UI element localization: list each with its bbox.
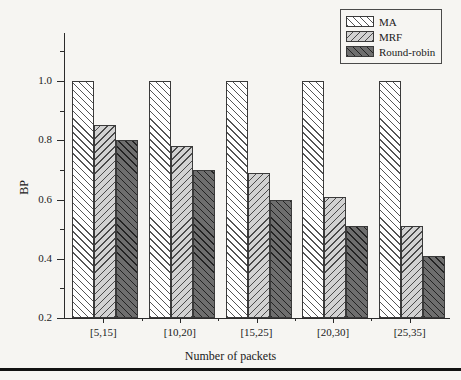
bar-mrf-0 (94, 125, 116, 318)
x-tick-major (410, 318, 411, 323)
bar-rr-3 (346, 226, 368, 318)
x-axis-title: Number of packets (0, 349, 461, 364)
y-tick-major (57, 140, 65, 141)
x-tick-minor (142, 318, 143, 321)
y-tick-major (57, 81, 65, 82)
legend-swatch-ma-icon (346, 16, 374, 27)
bar-mrf-4 (401, 226, 423, 318)
bar-rr-4 (423, 256, 445, 318)
x-tick-minor (371, 318, 372, 321)
y-tick-major (57, 200, 65, 201)
legend-label-round-robin: Round-robin (379, 46, 435, 58)
legend-swatch-round-robin-icon (346, 46, 374, 57)
bar-ma-1 (149, 81, 171, 318)
legend-swatch-mrf-icon (346, 31, 374, 42)
y-axis-title: BP (17, 158, 32, 218)
bar-ma-0 (72, 81, 94, 318)
legend-item-mrf: MRF (346, 29, 435, 44)
bar-ma-4 (379, 81, 401, 318)
plot-area (65, 81, 448, 318)
x-tick-label: [25,35] (365, 326, 455, 339)
legend-label-mrf: MRF (379, 31, 402, 43)
x-tick-major (333, 318, 334, 323)
x-tick-major (103, 318, 104, 323)
x-tick-major (257, 318, 258, 323)
chart-figure: 1.00.80.60.40.2 [5,15][10,20][15,25][20,… (0, 0, 461, 380)
bar-rr-0 (116, 140, 138, 318)
legend-item-round-robin: Round-robin (346, 44, 435, 59)
y-tick-label: 0.4 (12, 253, 52, 264)
y-tick-label: 1.0 (12, 75, 52, 86)
x-tick-major (180, 318, 181, 323)
y-tick-major (57, 259, 65, 260)
bar-mrf-1 (171, 146, 193, 318)
chart-legend: MA MRF Round-robin (340, 9, 442, 64)
bar-ma-3 (302, 81, 324, 318)
bar-mrf-3 (324, 197, 346, 318)
y-tick-label: 0.8 (12, 134, 52, 145)
bar-mrf-2 (248, 173, 270, 318)
legend-label-ma: MA (379, 16, 397, 28)
legend-item-ma: MA (346, 14, 435, 29)
x-tick-minor (218, 318, 219, 321)
bar-rr-1 (193, 170, 215, 318)
bar-rr-2 (270, 200, 292, 319)
y-tick-label: 0.2 (12, 312, 52, 323)
y-tick-minor (60, 51, 65, 52)
y-tick-major (57, 318, 65, 319)
page-divider-rule (0, 368, 461, 371)
x-tick-minor (295, 318, 296, 321)
bar-ma-2 (226, 81, 248, 318)
